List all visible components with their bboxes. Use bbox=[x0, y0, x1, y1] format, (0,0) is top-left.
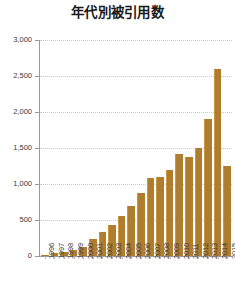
x-tick-mark-1997 bbox=[54, 256, 55, 259]
x-tick-mark-1999 bbox=[74, 256, 75, 259]
bar-2010[interactable] bbox=[175, 154, 182, 256]
bar-2013[interactable] bbox=[204, 119, 211, 256]
bar-2011[interactable] bbox=[185, 157, 192, 256]
x-tick-mark-2004 bbox=[122, 256, 123, 259]
x-tick-mark-2001 bbox=[93, 256, 94, 259]
x-tick-mark-2003 bbox=[112, 256, 113, 259]
x-tick-mark-1996 bbox=[45, 256, 46, 259]
chart-title: 年代別被引用数 bbox=[0, 5, 235, 21]
y-tick-label: 2,500 bbox=[0, 72, 32, 80]
y-tick-label: 1,500 bbox=[0, 144, 32, 152]
x-tick-mark-2013 bbox=[208, 256, 209, 259]
y-tick-label: 3,000 bbox=[0, 36, 32, 44]
x-tick-label-2015: 2015 bbox=[231, 243, 235, 259]
y-tick-label: 2,000 bbox=[0, 108, 32, 116]
x-tick-mark-2012 bbox=[198, 256, 199, 259]
bar-2014[interactable] bbox=[214, 69, 221, 256]
bar-2012[interactable] bbox=[195, 148, 202, 256]
y-tick-label: 1,000 bbox=[0, 180, 32, 188]
x-tick-mark-2005 bbox=[131, 256, 132, 259]
plot-area bbox=[40, 40, 232, 256]
x-tick-mark-2002 bbox=[102, 256, 103, 259]
x-tick-mark-2008 bbox=[160, 256, 161, 259]
x-tick-mark-2007 bbox=[150, 256, 151, 259]
x-tick-mark-2011 bbox=[189, 256, 190, 259]
citations-by-year-bar-chart: 年代別被引用数 05001,0001,5002,0002,5003,000 19… bbox=[0, 0, 235, 289]
x-tick-mark-2009 bbox=[170, 256, 171, 259]
x-tick-mark-2006 bbox=[141, 256, 142, 259]
x-tick-mark-2015 bbox=[227, 256, 228, 259]
y-tick-label: 0 bbox=[0, 252, 32, 260]
x-tick-mark-2000 bbox=[83, 256, 84, 259]
x-tick-mark-1998 bbox=[64, 256, 65, 259]
y-tick-label: 500 bbox=[0, 216, 32, 224]
x-tick-mark-2014 bbox=[218, 256, 219, 259]
x-tick-mark-2010 bbox=[179, 256, 180, 259]
